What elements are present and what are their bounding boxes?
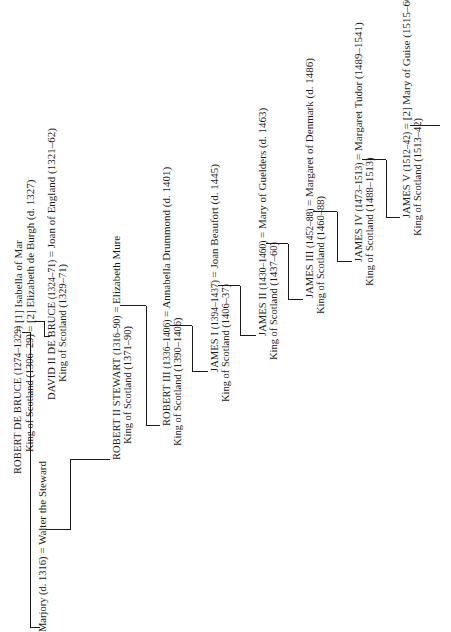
descent-line xyxy=(70,460,71,530)
descent-line xyxy=(410,125,440,126)
person-dates: (1394–1437) xyxy=(210,280,220,329)
descent-line xyxy=(22,332,30,333)
james-iii-title: King of Scotland (1460–88) xyxy=(315,196,327,314)
person-name: JAMES I xyxy=(209,332,220,372)
descent-line xyxy=(146,306,147,426)
descent-line xyxy=(337,261,352,262)
spouse: = Walter the Steward xyxy=(36,461,48,554)
person-name: JAMES V xyxy=(401,174,412,218)
david-ii-title: King of Scotland (1329–71) xyxy=(57,264,69,382)
robert-de-bruce-spouse-2: = [2] Elizabeth de Burgh (d. 1327) xyxy=(24,180,36,332)
marjory-node: Marjory (d. 1316) = Walter the Steward xyxy=(36,461,49,632)
spouse: = Joan Beaufort (d. 1445) xyxy=(208,164,220,277)
spouse: = Mary of Guelders (d. 1463) xyxy=(256,108,268,238)
descent-line xyxy=(192,371,208,372)
descent-line xyxy=(266,243,288,244)
person-dates: (1512–42) xyxy=(402,132,412,172)
spouse: = Elizabeth Mure xyxy=(110,236,122,313)
james-ii-title: King of Scotland (1437–60) xyxy=(268,242,280,360)
genealogy-tree: ROBERT DE BRUCE (1274–1329) King of Scot… xyxy=(0,0,451,632)
descent-line xyxy=(288,299,303,300)
descent-line xyxy=(170,325,192,326)
person-name: JAMES II xyxy=(257,292,268,336)
spouse: = Margaret of Denmark (d. 1486) xyxy=(303,58,315,206)
person-dates: (1452–88) xyxy=(305,209,315,249)
person-name: JAMES III xyxy=(304,251,315,298)
robert-iii-title: King of Scotland (1390–1406) xyxy=(172,317,184,446)
spouse: = [2] Mary of Guise (1515–60) xyxy=(400,0,412,129)
descent-line xyxy=(337,212,338,262)
person-dates: (1316–90) xyxy=(112,315,122,355)
descent-line xyxy=(70,459,110,460)
person-name: ROBERT III xyxy=(161,371,172,426)
person-dates: (1473–1513) xyxy=(354,163,364,212)
person-dates: (1430–1460) xyxy=(258,241,268,290)
person-name: Marjory (d. 1316) xyxy=(37,556,48,632)
robert-de-bruce-spouse-1: = [1] Isabella of Mar xyxy=(12,240,24,332)
descent-line xyxy=(386,217,400,218)
descent-line xyxy=(46,529,70,530)
descent-line xyxy=(30,332,31,628)
person-dates: (1324–71) xyxy=(47,260,57,300)
spouse: = Annabella Drummond (d. 1401) xyxy=(160,167,172,317)
person-name: JAMES IV xyxy=(353,214,364,262)
spouse: = Margaret Tudor (1489–1541) xyxy=(352,22,364,160)
descent-line xyxy=(34,321,44,322)
robert-ii-title: King of Scotland (1371–90) xyxy=(122,326,134,444)
descent-line xyxy=(146,425,160,426)
descent-line xyxy=(386,160,387,218)
descent-line xyxy=(313,211,337,212)
person-dates: (1274–1329) xyxy=(13,326,23,375)
james-i-title: King of Scotland (1406–37) xyxy=(220,284,232,402)
person-dates: (1336–1406) xyxy=(162,320,172,369)
descent-line xyxy=(288,244,289,300)
james-v-title: King of Scotland (1513–42) xyxy=(412,118,424,236)
person-name: DAVID II DE BRUCE xyxy=(46,302,57,400)
descent-line xyxy=(120,305,146,306)
james-iv-title: King of Scotland (1488–1513) xyxy=(364,157,376,286)
spouse: = Joan of England (1321–62) xyxy=(45,128,57,257)
descent-line xyxy=(240,335,256,336)
robert-de-bruce-node: ROBERT DE BRUCE (1274–1329) xyxy=(12,326,24,474)
descent-line xyxy=(362,159,386,160)
descent-line xyxy=(218,285,240,286)
person-name: ROBERT II STEWART xyxy=(111,358,122,460)
descent-line xyxy=(240,286,241,336)
person-name: ROBERT DE BRUCE xyxy=(12,378,23,474)
descent-line xyxy=(192,326,193,372)
